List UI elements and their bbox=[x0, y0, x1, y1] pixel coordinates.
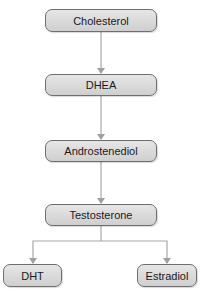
node-cholesterol: Cholesterol bbox=[45, 9, 157, 32]
arrow-testosterone-estradiol bbox=[101, 241, 167, 263]
node-dht: DHT bbox=[3, 264, 62, 287]
arrow-testosterone-dht bbox=[33, 241, 101, 263]
node-estradiol: Estradiol bbox=[137, 264, 197, 287]
node-androstenediol: Androstenediol bbox=[45, 140, 157, 162]
node-testosterone: Testosterone bbox=[45, 204, 157, 226]
node-dhea: DHEA bbox=[45, 74, 157, 96]
